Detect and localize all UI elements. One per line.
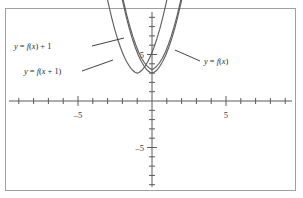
x-tick-label-minus5: –5 — [73, 110, 83, 120]
label-shift-up: y = f(x) + 1 — [13, 42, 51, 51]
label-base: y = f(x) — [203, 57, 228, 66]
math-figure: –5 5 5 –5 y = f(x) + 1 y = f(x + 1) y = — [0, 0, 303, 198]
x-tick-label-5: 5 — [224, 110, 228, 120]
graph-canvas: –5 5 5 –5 y = f(x) + 1 y = f(x + 1) y = — [0, 0, 303, 198]
label-shift-left: y = f(x + 1) — [23, 67, 62, 76]
y-tick-label-minus5: –5 — [134, 143, 144, 153]
